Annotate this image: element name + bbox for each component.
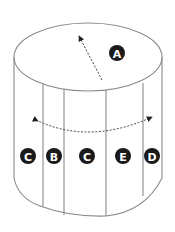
label-badge-c-center: C [79, 148, 95, 164]
cylinder-bottom-curve [14, 178, 162, 216]
svg-text:D: D [147, 151, 156, 164]
cylinder-top-ellipse [14, 23, 162, 91]
label-badge-b: B [46, 148, 62, 164]
svg-text:C: C [24, 151, 32, 164]
svg-text:A: A [113, 48, 122, 61]
side-rotation-arrow [36, 118, 150, 132]
top-direction-arrow [80, 38, 102, 80]
label-badge-e: E [115, 148, 131, 164]
svg-text:B: B [50, 151, 58, 164]
svg-text:E: E [119, 151, 127, 164]
label-badge-c-left: C [20, 148, 36, 164]
svg-text:C: C [83, 151, 91, 164]
label-badge-d: D [144, 148, 160, 164]
cylinder-diagram: A C B C E D [0, 0, 175, 232]
label-badge-a: A [109, 45, 125, 61]
